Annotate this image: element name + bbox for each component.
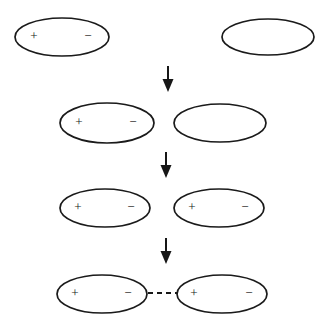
minus-sign-label: − bbox=[124, 285, 131, 300]
minus-sign-label: − bbox=[241, 199, 248, 214]
minus-sign-label: − bbox=[84, 28, 91, 43]
polarized-ellipse bbox=[15, 18, 109, 56]
polarized-ellipse bbox=[60, 103, 154, 143]
down-arrow-3 bbox=[161, 238, 172, 264]
plus-sign-label: + bbox=[71, 285, 78, 300]
plus-sign-label: + bbox=[188, 199, 195, 214]
arrow-head bbox=[161, 251, 172, 264]
down-arrow-2 bbox=[161, 152, 172, 178]
plus-sign-label: + bbox=[74, 199, 81, 214]
neutral-ellipse bbox=[174, 104, 266, 142]
stage-4-group: + − + − bbox=[57, 275, 267, 313]
minus-sign-label: − bbox=[245, 285, 252, 300]
diagram-canvas: + − + − + − + − bbox=[0, 0, 331, 321]
stage-3-group: + − + − bbox=[60, 189, 264, 227]
plus-sign-label: + bbox=[190, 285, 197, 300]
arrow-head bbox=[163, 79, 174, 92]
down-arrow-1 bbox=[163, 66, 174, 92]
plus-sign-label: + bbox=[75, 114, 82, 129]
minus-sign-label: − bbox=[129, 114, 136, 129]
dipole-interaction-diagram: + − + − + − + − bbox=[0, 0, 331, 321]
stage-2-group: + − bbox=[60, 103, 266, 143]
minus-sign-label: − bbox=[127, 199, 134, 214]
arrow-head bbox=[161, 165, 172, 178]
plus-sign-label: + bbox=[30, 28, 37, 43]
stage-1-group: + − bbox=[15, 18, 314, 56]
neutral-ellipse bbox=[222, 19, 314, 55]
